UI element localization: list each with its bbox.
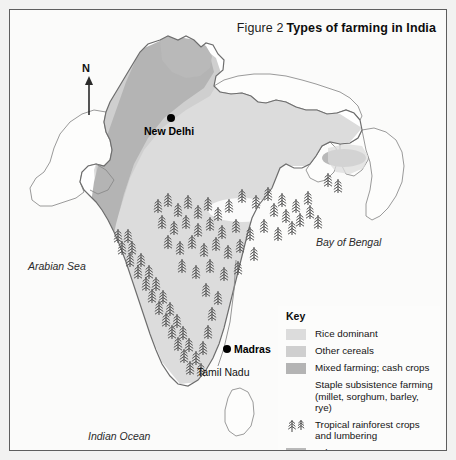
figure-title-block: Figure 2Types of farming in India [237, 18, 436, 36]
legend-sublabel-staple-subsistence: (millet, sorghum, barley, rye) [315, 391, 438, 414]
legend-swatch-other [286, 448, 306, 451]
legend-item-other-cereals: Other cereals [286, 345, 438, 357]
legend-label-other-cereals: Other cereals [315, 345, 374, 356]
north-arrow-label: N [82, 62, 90, 74]
legend-label-mixed-farming: Mixed farming; cash crops [315, 362, 429, 373]
legend-item-staple-subsistence: Staple subsistence farming (millet, sorg… [286, 379, 438, 414]
legend-title: Key [286, 310, 438, 322]
city-marker-new-delhi [167, 114, 175, 122]
legend-swatch-mixed-farming [286, 363, 306, 374]
legend-swatch-staple-subsistence [286, 380, 306, 391]
legend-label-tropical-rainforest: Tropical rainforest crops [315, 419, 420, 430]
legend-item-other: Other [286, 447, 438, 451]
figure-root: Figure 2Types of farming in India N Arab… [0, 0, 456, 460]
legend-swatch-other-cereals [286, 346, 306, 357]
legend-label-rice-dominant: Rice dominant [315, 328, 378, 339]
map-legend: Key Rice dominant Other cereals Mixed fa… [278, 306, 440, 451]
north-arrow-glyph [78, 75, 100, 117]
legend-sublabel-tropical-rainforest: and lumbering [315, 430, 420, 442]
city-marker-madras [223, 345, 231, 353]
figure-number: Figure 2 [237, 21, 284, 35]
legend-item-rice-dominant: Rice dominant [286, 328, 438, 340]
north-arrow-icon: N [78, 62, 100, 116]
map-frame: Figure 2Types of farming in India N Arab… [9, 9, 447, 451]
legend-label-other: Other [315, 447, 340, 451]
legend-item-tropical-rainforest: Tropical rainforest crops and lumbering [286, 419, 438, 442]
page-title: Types of farming in India [286, 21, 436, 35]
legend-item-mixed-farming: Mixed farming; cash crops [286, 362, 438, 374]
legend-label-staple-subsistence: Staple subsistence farming [315, 379, 433, 390]
legend-symbol-tree-icon [286, 419, 306, 433]
legend-swatch-rice-dominant [286, 329, 306, 340]
